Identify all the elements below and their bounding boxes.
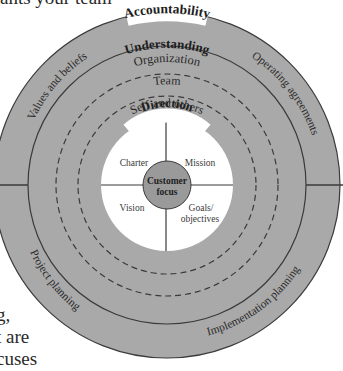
team-model-diagram: Accountability Understanding Organizatio…	[0, 0, 343, 371]
level-team: Team	[153, 73, 182, 88]
direction-charter: Charter	[120, 158, 149, 168]
direction-goals-line1: Goals/	[189, 203, 214, 213]
direction-mission: Mission	[185, 158, 216, 168]
core-label-line1: Customer	[147, 176, 188, 186]
core-label-line2: focus	[156, 187, 177, 197]
direction-goals-line2: objectives	[181, 214, 220, 224]
direction-vision: Vision	[120, 203, 145, 213]
